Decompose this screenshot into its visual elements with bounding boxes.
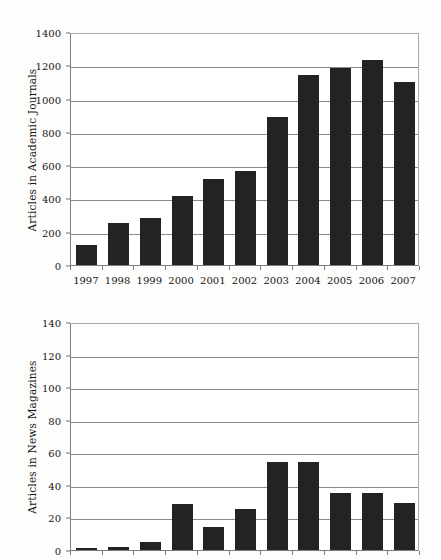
y-axis-tick-mark: [66, 485, 70, 486]
x-axis-tick-mark: [387, 266, 388, 270]
x-axis-tick-mark: [419, 266, 420, 270]
x-axis-tick-mark: [260, 266, 261, 270]
bar: [108, 223, 129, 265]
y-axis-tick-mark: [66, 132, 70, 133]
gridline: [71, 454, 418, 455]
y-axis-tick-label: 800: [0, 127, 61, 138]
bar: [203, 527, 224, 550]
y-axis-tick-mark: [66, 232, 70, 233]
bar: [172, 196, 193, 265]
bar: [330, 493, 351, 550]
y-axis-tick-label: 1400: [0, 28, 61, 39]
y-axis-tick-label: 0: [0, 546, 61, 557]
academic-journals-chart: Articles in Academic Journals 0200400600…: [0, 0, 441, 295]
y-axis-tick-mark: [66, 420, 70, 421]
bar: [172, 504, 193, 550]
y-axis-tick-mark: [66, 518, 70, 519]
y-axis-tick-mark: [66, 388, 70, 389]
bar: [140, 218, 161, 265]
x-axis-tick-mark: [324, 266, 325, 270]
y-axis-tick-mark: [66, 66, 70, 67]
x-axis-tick-mark: [197, 266, 198, 270]
y-axis-tick-label: 120: [0, 350, 61, 361]
bar: [298, 75, 319, 265]
y-axis-tick-label: 20: [0, 513, 61, 524]
y-axis-tick-label: 80: [0, 415, 61, 426]
x-axis-tick-label: 1999: [137, 275, 162, 286]
x-axis-tick-mark: [165, 266, 166, 270]
x-axis-tick-mark: [229, 266, 230, 270]
plot-area-news: [70, 323, 419, 551]
y-axis-tick-mark: [66, 99, 70, 100]
x-axis-tick-label: 2004: [295, 275, 320, 286]
x-axis-tick-mark: [133, 266, 134, 270]
news-magazines-chart: Articles in News Magazines 0204060801001…: [0, 295, 441, 560]
x-axis-tick-mark: [292, 551, 293, 555]
x-axis-tick-label: 2006: [359, 275, 384, 286]
bar: [394, 82, 415, 265]
x-axis-tick-mark: [260, 551, 261, 555]
y-axis-tick-label: 60: [0, 448, 61, 459]
x-axis-tick-label: 2003: [263, 275, 288, 286]
y-axis-tick-label: 100: [0, 383, 61, 394]
x-axis-tick-mark: [102, 551, 103, 555]
x-axis-tick-mark: [165, 551, 166, 555]
plot-area-academic: [70, 33, 419, 266]
y-axis-tick-label: 40: [0, 480, 61, 491]
x-axis-tick-label: 2000: [168, 275, 193, 286]
x-axis-tick-label: 1998: [105, 275, 130, 286]
x-axis-tick-label: 2007: [390, 275, 415, 286]
bar: [330, 68, 351, 265]
y-axis-tick-label: 1200: [0, 61, 61, 72]
y-axis-tick-mark: [66, 33, 70, 34]
bar: [298, 462, 319, 550]
gridline: [71, 422, 418, 423]
y-axis-label-academic: Articles in Academic Journals: [26, 68, 38, 231]
bar: [267, 462, 288, 550]
bar: [362, 493, 383, 550]
x-axis-tick-label: 1997: [73, 275, 98, 286]
y-axis-tick-label: 1000: [0, 94, 61, 105]
bar: [76, 245, 97, 265]
x-axis-tick-label: 2001: [200, 275, 225, 286]
x-axis-tick-mark: [70, 266, 71, 270]
x-axis-tick-mark: [292, 266, 293, 270]
bar: [362, 60, 383, 265]
y-axis-tick-mark: [66, 453, 70, 454]
y-axis-tick-label: 0: [0, 261, 61, 272]
bar: [235, 171, 256, 265]
gridline: [71, 487, 418, 488]
y-axis-tick-label: 400: [0, 194, 61, 205]
x-axis-tick-mark: [102, 266, 103, 270]
y-axis-tick-label: 140: [0, 318, 61, 329]
y-axis-tick-mark: [66, 199, 70, 200]
x-axis-tick-mark: [356, 551, 357, 555]
y-axis-tick-mark: [66, 166, 70, 167]
x-axis-tick-mark: [70, 551, 71, 555]
bar: [76, 548, 97, 550]
y-axis-tick-mark: [66, 355, 70, 356]
y-axis-tick-label: 600: [0, 161, 61, 172]
bar: [140, 542, 161, 550]
x-axis-tick-mark: [324, 551, 325, 555]
y-axis-tick-mark: [66, 323, 70, 324]
x-axis-tick-label: 2005: [327, 275, 352, 286]
gridline: [71, 357, 418, 358]
x-axis-tick-mark: [387, 551, 388, 555]
x-axis-tick-mark: [133, 551, 134, 555]
x-axis-tick-mark: [356, 266, 357, 270]
x-axis-tick-mark: [197, 551, 198, 555]
bar: [267, 117, 288, 265]
x-axis-tick-label: 2002: [232, 275, 257, 286]
bar: [235, 509, 256, 550]
bar: [394, 503, 415, 550]
x-axis-tick-mark: [419, 551, 420, 555]
bar: [203, 179, 224, 265]
bar: [108, 547, 129, 550]
x-axis-tick-mark: [229, 551, 230, 555]
gridline: [71, 389, 418, 390]
y-axis-tick-label: 200: [0, 227, 61, 238]
